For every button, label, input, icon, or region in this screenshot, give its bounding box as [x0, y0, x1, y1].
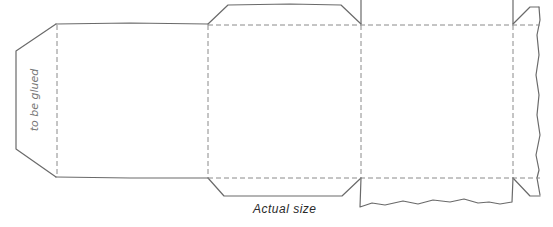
- panel-3-torn-bottom: [360, 178, 513, 207]
- top-flap-outline: [208, 4, 361, 24]
- right-partial-bottom-flap: [513, 178, 540, 196]
- right-partial-torn-edge: [536, 7, 540, 195]
- panel-1-bottom-edge: [56, 177, 208, 178]
- right-partial-top-flap: [513, 7, 539, 24]
- panel-1-top-edge: [56, 23, 208, 24]
- bottom-flap-outline: [208, 178, 361, 196]
- glue-tab-label: to be glued: [28, 69, 41, 132]
- box-net-diagram: [0, 0, 553, 227]
- caption: Actual size: [253, 202, 317, 216]
